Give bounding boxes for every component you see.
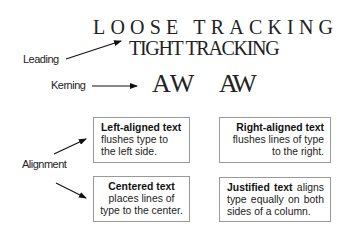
kerning-label: Kerning — [51, 79, 85, 91]
centered-box: Centered text places lines of type to th… — [93, 176, 190, 222]
alignment-arrow-up — [54, 139, 86, 154]
alignment-label: Alignment — [22, 158, 66, 170]
box-body: places lines of type to the center. — [100, 193, 183, 216]
alignment-arrow-down — [56, 183, 86, 198]
kerning-after-sample: AW — [219, 71, 253, 97]
right-aligned-box: Right-aligned text flushes lines of type… — [219, 117, 331, 163]
box-body: flushes lines of type to the right. — [233, 134, 324, 157]
box-body: flushes type to the left side. — [101, 134, 168, 157]
left-aligned-box: Left-aligned text flushes type to the le… — [93, 117, 190, 163]
box-title: Right-aligned text — [236, 122, 324, 133]
box-title: Left-aligned text — [101, 122, 181, 133]
tight-tracking-sample: TIGHT TRACKING — [129, 37, 278, 59]
justified-box: Justified text aligns type equally on bo… — [219, 177, 331, 222]
leading-label: Leading — [23, 53, 59, 65]
box-title: Justified text — [227, 182, 293, 193]
leading-arrow — [66, 41, 121, 59]
kerning-before-sample: AW — [152, 71, 195, 97]
loose-tracking-sample: LOOSE TRACKING — [93, 16, 338, 38]
box-title: Centered text — [108, 181, 174, 192]
